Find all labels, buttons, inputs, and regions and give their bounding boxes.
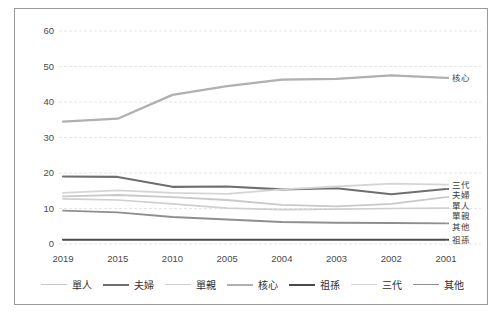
series-line: [63, 75, 446, 121]
chart-legend: 單人夫婦單親核心祖孫三代其他: [15, 277, 489, 292]
gridlines: 0102030405060: [43, 25, 481, 249]
series-end-labels: 單人夫婦單親核心祖孫三代其他: [447, 73, 470, 245]
line-chart-svg: 0102030405060單人夫婦單親核心祖孫三代其他2019201520102…: [15, 9, 489, 306]
legend-line-swatch: [413, 284, 439, 285]
legend-label: 單親: [196, 277, 216, 292]
series-end-label: 夫婦: [452, 190, 470, 200]
legend-label: 祖孫: [320, 277, 340, 292]
legend-item[interactable]: 夫婦: [103, 277, 154, 292]
y-axis-tick-label: 10: [43, 203, 54, 214]
x-axis-tick-label: 2002: [381, 253, 402, 264]
series-line: [63, 211, 446, 224]
legend-item[interactable]: 單人: [41, 277, 92, 292]
legend-line-swatch: [351, 284, 377, 285]
y-axis-tick-label: 40: [43, 96, 54, 107]
plot-area: 0102030405060單人夫婦單親核心祖孫三代其他2019201520102…: [15, 9, 489, 306]
legend-item[interactable]: 其他: [413, 277, 464, 292]
legend-item[interactable]: 單親: [165, 277, 216, 292]
y-axis-tick-label: 60: [43, 25, 54, 36]
x-axis-tick-label: 2015: [107, 253, 128, 264]
legend-item[interactable]: 核心: [227, 277, 278, 292]
series-end-label: 其他: [452, 222, 470, 232]
x-axis-tick-label: 2005: [217, 253, 238, 264]
legend-line-swatch: [41, 284, 67, 285]
legend-label: 其他: [444, 277, 464, 292]
x-axis-tick-label: 2019: [52, 253, 73, 264]
legend-label: 夫婦: [134, 277, 154, 292]
legend-label: 單人: [72, 277, 92, 292]
legend-label: 三代: [382, 277, 402, 292]
chart-frame: 0102030405060單人夫婦單親核心祖孫三代其他2019201520102…: [14, 8, 488, 305]
x-axis-tick-label: 2010: [162, 253, 183, 264]
x-axis: 20192015201020052004200320022001: [52, 253, 456, 264]
x-axis-tick-label: 2004: [271, 253, 292, 264]
x-axis-tick-label: 2001: [435, 253, 456, 264]
legend-item[interactable]: 祖孫: [289, 277, 340, 292]
series-end-label: 祖孫: [452, 235, 470, 245]
legend-label: 核心: [258, 277, 278, 292]
y-axis-tick-label: 30: [43, 132, 54, 143]
series-end-label: 單人: [452, 201, 470, 211]
series-group: [63, 75, 446, 239]
legend-line-swatch: [165, 284, 191, 285]
y-axis-tick-label: 50: [43, 61, 54, 72]
legend-line-swatch: [227, 284, 253, 286]
legend-line-swatch: [289, 284, 315, 286]
series-end-label: 核心: [452, 73, 470, 83]
y-axis-tick-label: 0: [49, 238, 54, 249]
series-end-label: 單親: [452, 211, 470, 221]
legend-line-swatch: [103, 284, 129, 286]
x-axis-tick-label: 2003: [326, 253, 347, 264]
legend-item[interactable]: 三代: [351, 277, 402, 292]
series-end-label: 三代: [452, 180, 470, 190]
y-axis-tick-label: 20: [43, 167, 54, 178]
